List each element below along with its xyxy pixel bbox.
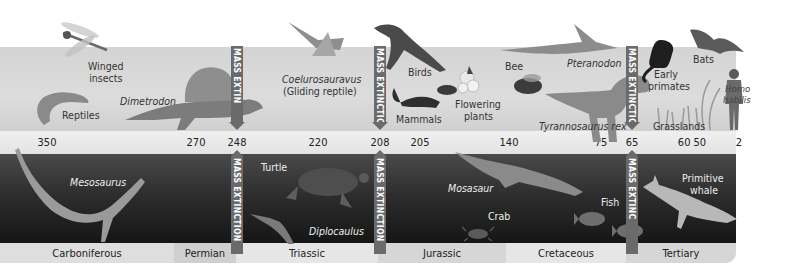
label-mesosaurus: Mesosaurus (70, 176, 126, 188)
label-early: Early (654, 68, 678, 80)
label-grasslands: Grasslands (653, 120, 705, 132)
period-permian: Permian (174, 243, 236, 263)
tick-label: 140 (500, 136, 519, 149)
mass-extinction-208-upper: MASS EXTINCTION (374, 46, 388, 130)
period-label: Triassic (289, 247, 325, 260)
label-winged-insects: Winged insects (88, 60, 124, 84)
tick-label: 270 (187, 136, 206, 149)
period-cretaceous: Cretaceous (506, 243, 626, 263)
mass-extinction-label: MASS EXTINCTION (374, 46, 386, 122)
mass-extinction-65-upper: MASS EXTINCTION (626, 46, 640, 130)
label-flowering: Flowering (455, 98, 501, 110)
label-coelurosauravus: Coelurosauravus (282, 73, 361, 85)
label-turtle: Turtle (261, 161, 287, 173)
label-text: Winged insects (88, 60, 124, 84)
mass-extinction-label: MASS EXTIN (231, 46, 243, 122)
period-carboniferous: Carboniferous (0, 243, 174, 263)
tick-label: 2 (736, 136, 742, 149)
mosasaur-icon (455, 152, 585, 202)
period-label: Tertiary (663, 247, 700, 260)
label-diplocaulus: Diplocaulus (309, 225, 364, 237)
arrow-down-icon (624, 122, 640, 130)
period-jurassic: Jurassic (378, 243, 506, 263)
tick-label: 248 (228, 136, 247, 149)
tick-label: 205 (411, 136, 430, 149)
mass-extinction-label: MASS EXTINC (626, 156, 638, 254)
label-whale: whale (690, 184, 718, 196)
crab-icon (462, 225, 494, 241)
mass-extinction-248-upper: MASS EXTIN (231, 46, 245, 130)
mass-extinction-label: MASS EXTINCTION (374, 156, 386, 254)
tick-label: 220 (309, 136, 328, 149)
gliding-reptile-icon (288, 20, 348, 62)
pteranodon-icon (500, 22, 620, 62)
label-primates: primates (648, 80, 690, 92)
mass-extinction-label: MASS EXTINCTION (231, 156, 243, 254)
mass-extinction-208-lower: MASS EXTINCTION (374, 150, 386, 254)
mammal-icon (388, 86, 444, 112)
label-dimetrodon: Dimetrodon (120, 95, 176, 107)
label-mammals: Mammals (396, 113, 442, 125)
label-reptiles: Reptiles (62, 109, 100, 121)
diplocaulus-icon (250, 210, 310, 245)
label-plants: plants (464, 110, 493, 122)
label-fish: Fish (601, 196, 619, 208)
tick-label: 208 (371, 136, 390, 149)
reptile-icon (32, 85, 92, 130)
fish-icon (574, 210, 610, 228)
label-birds: Birds (408, 66, 432, 78)
label-tyrannosaurus: Tyrannosaurus rex (539, 120, 627, 132)
period-tertiary: Tertiary (626, 243, 736, 263)
label-pteranodon: Pteranodon (567, 57, 621, 69)
period-label: Cretaceous (538, 247, 594, 260)
period-label: Carboniferous (52, 247, 121, 260)
mesosaurus-icon (15, 146, 145, 246)
arrow-down-icon (229, 122, 245, 130)
period-triassic: Triassic (236, 243, 378, 263)
label-bats: Bats (693, 53, 714, 65)
dragonfly-icon (45, 18, 115, 63)
mass-extinction-label: MASS EXTINCTION (626, 46, 638, 122)
period-label: Permian (185, 247, 225, 260)
label-mosasaur: Mosasaur (448, 182, 493, 194)
bee-icon (510, 70, 548, 98)
flower-icon (437, 64, 481, 100)
tick-label: 60 50 (678, 136, 706, 149)
mass-extinction-248-lower: MASS EXTINCTION (231, 150, 243, 254)
turtle-icon (282, 160, 374, 210)
label-gliding-reptile: (Gliding reptile) (283, 85, 357, 97)
label-primitive: Primitive (682, 172, 724, 184)
arrow-down-icon (372, 122, 388, 130)
mass-extinction-65-lower: MASS EXTINC (626, 150, 638, 254)
period-label: Jurassic (423, 247, 461, 260)
label-habilis: habilis (723, 94, 751, 106)
label-crab: Crab (488, 210, 510, 222)
label-bee: Bee (505, 60, 523, 72)
